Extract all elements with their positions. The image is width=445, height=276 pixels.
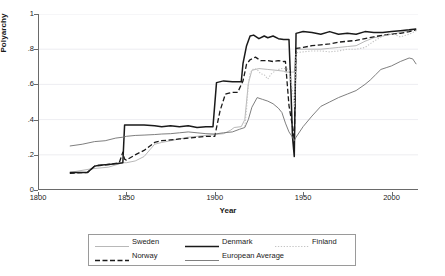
legend-label-norway: Norway: [132, 252, 157, 260]
legend-row-2: Norway European Average: [89, 251, 355, 265]
legend-row-1: Sweden Denmark Finland: [89, 237, 355, 251]
y-tick-label-3: .4: [4, 116, 34, 124]
chart-legend: Sweden Denmark Finland Norway European A…: [88, 234, 356, 266]
series-line-sweden: [70, 29, 416, 172]
x-axis-tick-labels: 18001850190019502000: [38, 192, 418, 206]
legend-swatch-norway: [95, 251, 129, 260]
x-tick-mark-2: [215, 192, 216, 196]
legend-label-sweden: Sweden: [132, 238, 159, 246]
series-line-european-average: [70, 58, 416, 146]
y-tick-label-0: 1: [4, 10, 34, 18]
legend-label-denmark: Denmark: [222, 238, 252, 246]
legend-swatch-finland: [275, 237, 309, 246]
y-tick-label-1: .8: [4, 45, 34, 53]
x-tick-mark-3: [303, 192, 304, 196]
legend-entry-finland: Finland: [275, 237, 337, 246]
legend-swatch-denmark: [185, 237, 219, 246]
series-line-norway: [70, 30, 416, 173]
series-line-denmark: [70, 29, 416, 172]
plot-area: [38, 14, 418, 190]
legend-swatch-sweden: [95, 237, 129, 246]
polyarchy-chart-figure: Polyarchy 1.8.6.4.20 1800185019001950200…: [0, 0, 445, 276]
y-tick-label-4: .2: [4, 151, 34, 159]
legend-entry-denmark: Denmark: [185, 237, 252, 246]
x-tick-mark-1: [126, 192, 127, 196]
legend-entry-norway: Norway: [95, 251, 157, 260]
legend-label-finland: Finland: [312, 238, 337, 246]
x-tick-mark-4: [392, 192, 393, 196]
y-tick-mark-5: [34, 190, 38, 191]
chart-svg: [38, 14, 418, 190]
x-tick-mark-0: [38, 192, 39, 196]
legend-label-european-average: European Average: [222, 252, 284, 260]
legend-swatch-european-average: [185, 251, 219, 260]
legend-entry-sweden: Sweden: [95, 237, 159, 246]
y-axis-tick-labels: 1.8.6.4.20: [0, 14, 34, 190]
series-line-finland: [245, 31, 416, 127]
x-axis-label: Year: [38, 206, 418, 215]
y-tick-label-2: .6: [4, 80, 34, 88]
legend-entry-european-average: European Average: [185, 251, 284, 260]
